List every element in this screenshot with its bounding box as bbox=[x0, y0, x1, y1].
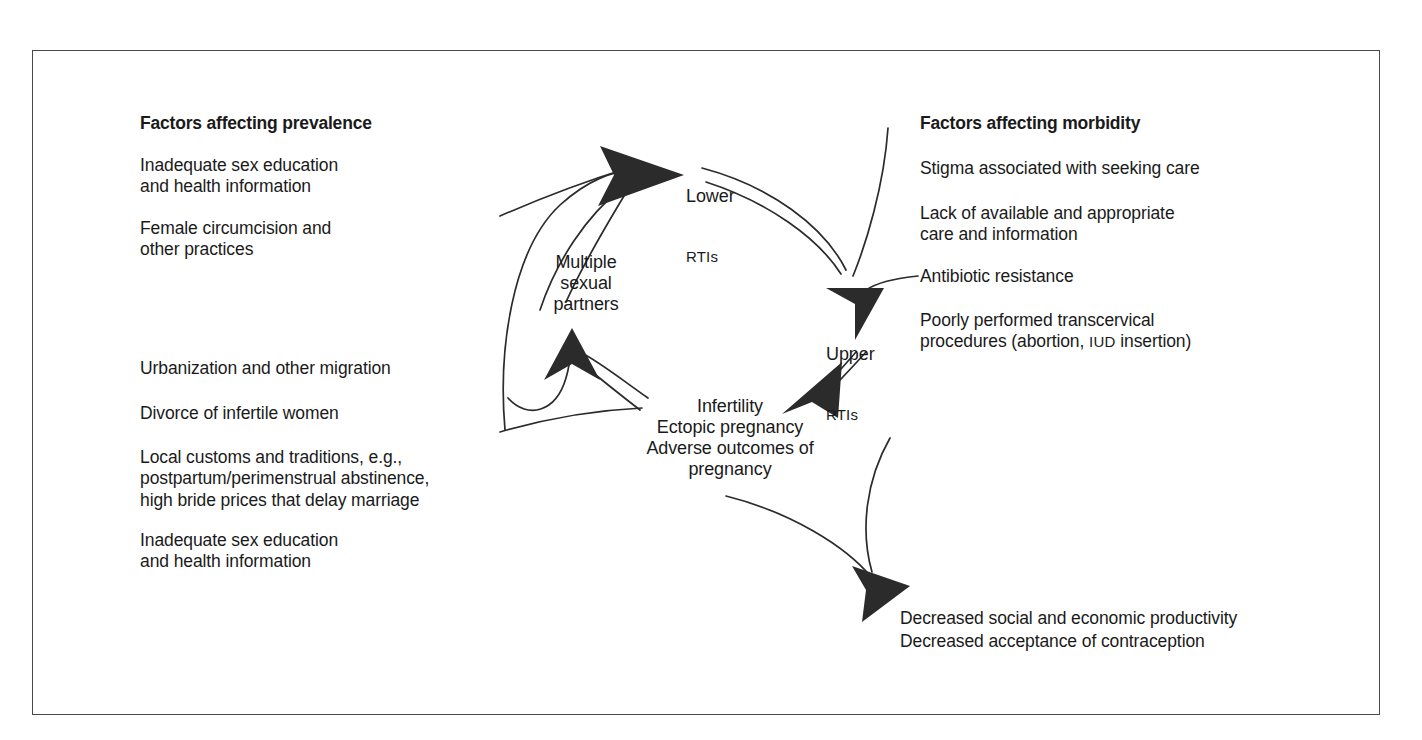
iud-abbreviation: IUD bbox=[1089, 333, 1115, 350]
node-lower-rtis: Lower RTIs bbox=[686, 144, 776, 308]
left-item-urbanization: Urbanization and other migration bbox=[140, 358, 391, 379]
left-column-heading: Factors affecting prevalence bbox=[140, 113, 372, 134]
right-item-transcervical-line1: Poorly performed transcervical bbox=[920, 310, 1154, 331]
figure-root: Factors affecting prevalence Inadequate … bbox=[0, 0, 1422, 740]
right-item-stigma: Stigma associated with seeking care bbox=[920, 158, 1200, 179]
right-item-lack-of-care: Lack of available and appropriate care a… bbox=[920, 203, 1175, 246]
right-column-heading: Factors affecting morbidity bbox=[920, 113, 1140, 134]
right-item-antibiotic-resistance: Antibiotic resistance bbox=[920, 266, 1074, 287]
transcervical-prefix: procedures (abortion, bbox=[920, 331, 1089, 351]
left-item-inadequate-sex-education-top: Inadequate sex education and health info… bbox=[140, 155, 338, 198]
left-item-inadequate-sex-education-bottom: Inadequate sex education and health info… bbox=[140, 530, 338, 573]
node-lower-rtis-line1: Lower bbox=[686, 186, 776, 207]
node-lower-rtis-line2: RTIs bbox=[686, 248, 776, 265]
outcome-line-1: Decreased social and economic productivi… bbox=[900, 608, 1237, 630]
left-item-female-circumcision: Female circumcision and other practices bbox=[140, 218, 331, 261]
transcervical-suffix: insertion) bbox=[1115, 331, 1191, 351]
left-item-divorce-infertile-women: Divorce of infertile women bbox=[140, 403, 339, 424]
outcome-line-2: Decreased acceptance of contraception bbox=[900, 631, 1205, 653]
node-upper-rtis-line1: Upper bbox=[826, 344, 916, 365]
right-item-transcervical-line2: procedures (abortion, IUD insertion) bbox=[920, 331, 1191, 352]
node-pregnancy-outcomes: Infertility Ectopic pregnancy Adverse ou… bbox=[620, 396, 840, 480]
left-item-local-customs: Local customs and traditions, e.g., post… bbox=[140, 447, 429, 511]
node-multiple-sexual-partners: Multiple sexual partners bbox=[536, 252, 636, 315]
